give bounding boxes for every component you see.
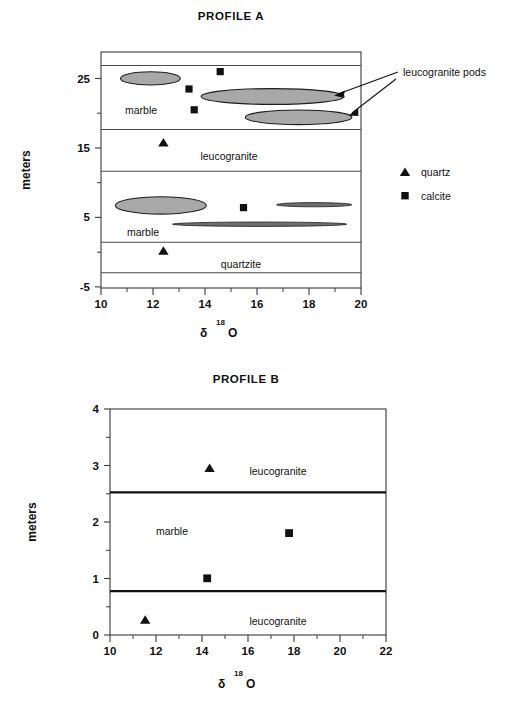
quartz-marker [158,138,168,147]
arrowhead-icon [349,109,359,116]
chart-b-xtick-label: 18 [288,645,301,657]
legend-label-quartz: quartz [421,166,450,178]
oxygen-symbol: O [246,677,255,691]
chart-profile-a: PROFILE A marble leucogranite marble qua… [19,10,486,340]
chart-b-xtick-label: 10 [104,645,117,657]
unit-label-quartzite: quartzite [221,258,261,270]
chart-a-x-axis: 10 12 14 16 18 20 δ 18 O [95,288,368,340]
unit-label-leucogranite: leucogranite [249,615,306,627]
chart-b-x-axis-label: δ 18 O [218,669,255,691]
chart-b-xtick-label: 16 [242,645,255,657]
chart-b-xtick-label: 20 [334,645,347,657]
chart-b-y-axis-label: meters [25,502,39,542]
delta-symbol: δ [200,326,207,340]
chart-b-ytick-label: 1 [93,573,100,585]
pod-shape [201,89,344,105]
chart-a-xtick-label: 20 [355,298,368,310]
chart-a-unit-labels: marble leucogranite marble quartzite [125,104,261,270]
chart-b-plot-frame [110,409,386,635]
unit-label-marble: marble [125,104,157,116]
chart-b-xtick-label: 22 [380,645,393,657]
calcite-marker [401,192,408,199]
chart-a-ytick-label: -5 [80,281,91,293]
chart-b-ytick-label: 3 [93,460,99,472]
chart-profile-b: PROFILE B leucogranite marble leucograni… [25,373,392,691]
chart-a-plot-frame [101,52,361,288]
chart-a-y-axis: 25 15 5 -5 meters [19,73,101,293]
calcite-marker [185,85,192,92]
calcite-marker [203,574,211,582]
chart-a-xtick-label: 16 [251,298,264,310]
chart-b-xtick-label: 14 [196,645,209,657]
isotope-superscript: 18 [234,669,243,678]
unit-label-marble: marble [127,226,159,238]
unit-label-leucogranite: leucogranite [249,465,306,477]
chart-b-ytick-label: 0 [93,629,99,641]
chart-a-y-axis-label: meters [19,150,33,190]
delta-symbol: δ [218,677,225,691]
chart-b-title: PROFILE B [213,373,280,385]
isotope-superscript: 18 [216,318,225,327]
chart-a-xtick-label: 12 [147,298,160,310]
quartz-marker [204,464,214,473]
chart-a-ytick-label: 25 [77,73,90,85]
oxygen-symbol: O [228,326,237,340]
chart-a-xtick-label: 10 [95,298,108,310]
legend-label-calcite: calcite [421,190,451,202]
calcite-marker [285,529,293,537]
quartz-marker [158,246,168,255]
annotation-label-leucogranite-pods: leucogranite pods [403,66,486,78]
chart-a-pod-annotation: leucogranite pods [334,66,486,116]
chart-b-x-axis: 10 12 14 16 18 20 22 δ 18 O [104,635,393,691]
unit-label-marble: marble [156,525,188,537]
chart-a-legend: quartz calcite [400,166,451,202]
chart-b-xtick-label: 12 [150,645,163,657]
pod-shape [245,110,352,125]
chart-a-ytick-label: 15 [77,142,90,154]
chart-a-xtick-label: 18 [303,298,316,310]
figure-root: PROFILE A marble leucogranite marble qua… [0,0,523,712]
chart-a-xtick-label: 14 [199,298,212,310]
chart-b-y-axis: 0 1 2 3 4 meters [25,403,110,641]
calcite-marker [217,68,224,75]
figure-svg: PROFILE A marble leucogranite marble qua… [0,0,523,712]
chart-b-ytick-label: 2 [93,516,99,528]
calcite-marker [240,204,247,211]
chart-b-unit-boundaries [110,492,386,591]
calcite-marker [191,106,198,113]
chart-a-title: PROFILE A [198,10,264,22]
pod-shape [120,72,180,85]
chart-b-data-points [140,464,293,624]
pod-shape-thin [277,203,352,207]
quartz-marker [140,615,150,624]
pod-shape [115,197,206,214]
unit-label-leucogranite: leucogranite [200,150,257,162]
chart-a-x-axis-label: δ 18 O [200,318,237,340]
chart-b-unit-labels: leucogranite marble leucogranite [156,465,307,627]
chart-a-ytick-label: 5 [84,211,91,223]
chart-b-ytick-label: 4 [93,403,100,415]
quartz-marker [400,168,410,177]
pod-shape-thin [173,222,347,226]
